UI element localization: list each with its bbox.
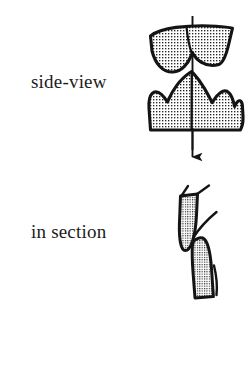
lower-tooth [149, 72, 243, 130]
panel-side-view [149, 16, 243, 157]
panel-in-section [179, 186, 217, 299]
upper-tooth [151, 26, 233, 72]
lower-tooth-outline [149, 72, 243, 130]
figure-root: side-view in section [0, 0, 250, 371]
tooth-occlusion-diagram [0, 0, 250, 371]
lower-tooth-section-outline [192, 238, 213, 298]
enamel-blade-line-2 [197, 186, 210, 195]
lower-tooth-section [192, 238, 213, 298]
